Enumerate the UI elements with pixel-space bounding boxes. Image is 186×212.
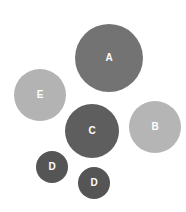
circle-node-c: C — [65, 104, 119, 158]
node-label-a: A — [105, 53, 112, 63]
node-label-e: E — [37, 90, 44, 100]
node-label-d-left: D — [48, 162, 55, 172]
circle-node-d-left: D — [36, 151, 68, 183]
circle-node-a: A — [75, 24, 143, 92]
circle-node-d-right: D — [78, 167, 110, 199]
circle-node-b: B — [129, 101, 181, 153]
diagram-canvas: A E C B D D — [0, 0, 186, 212]
node-label-b: B — [151, 122, 158, 132]
node-label-d-right: D — [90, 178, 97, 188]
circle-node-e: E — [14, 69, 66, 121]
node-label-c: C — [88, 126, 95, 136]
